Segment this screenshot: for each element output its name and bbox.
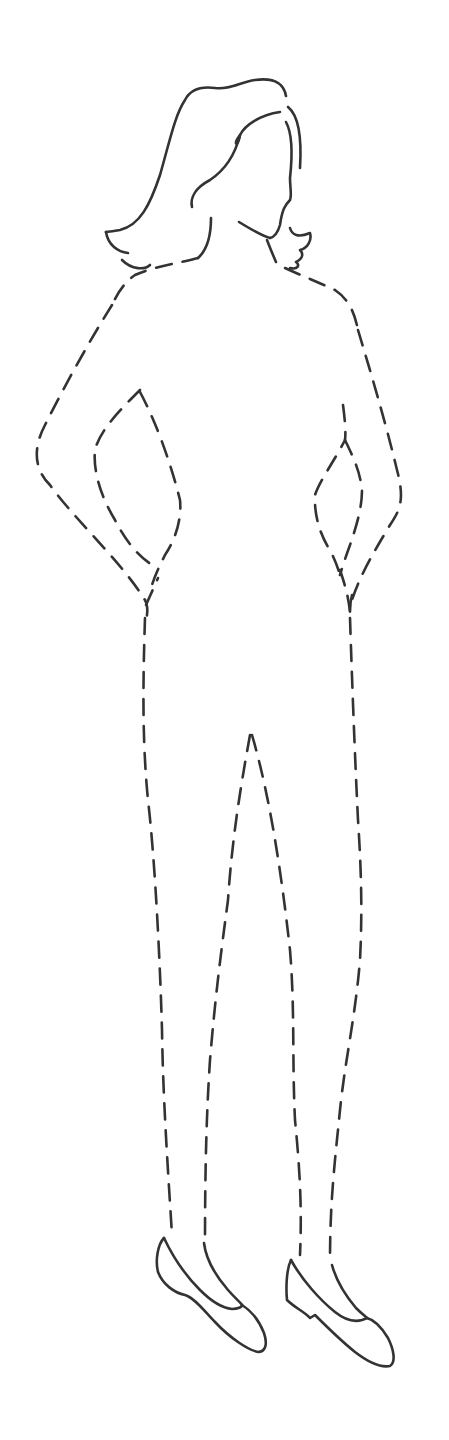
- left-arm: [37, 305, 181, 620]
- hair: [106, 79, 301, 268]
- legs: [143, 618, 361, 1260]
- face-profile: [239, 122, 291, 238]
- right-shoe: [286, 1260, 393, 1366]
- woman-outline-figure: [0, 0, 449, 1440]
- left-shoe: [157, 1238, 266, 1352]
- right-arm: [315, 330, 401, 615]
- shoulders: [112, 258, 358, 330]
- neck: [198, 218, 311, 268]
